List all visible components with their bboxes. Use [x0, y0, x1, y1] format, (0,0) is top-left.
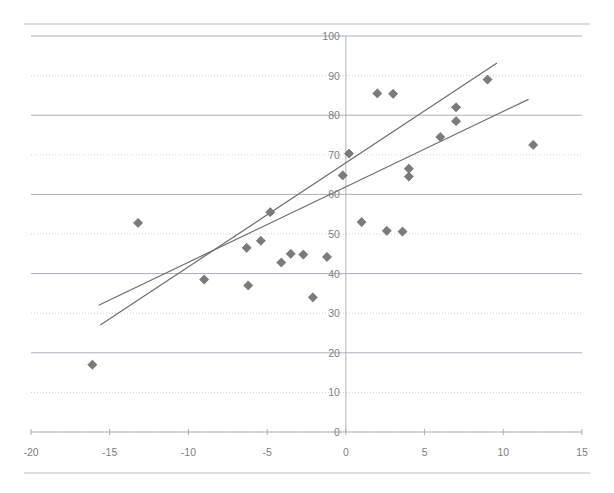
data-point	[388, 89, 397, 98]
data-point	[256, 236, 265, 245]
y-tick-label-100: 100	[322, 30, 340, 42]
x-tick-label--10: -10	[181, 446, 196, 458]
data-point	[357, 218, 366, 227]
trendline-shallower-fit	[99, 99, 529, 305]
data-point	[286, 249, 295, 258]
data-point	[483, 75, 492, 84]
data-point	[200, 275, 209, 284]
data-point	[277, 258, 286, 267]
y-tick-label-30: 30	[328, 307, 340, 319]
y-axis-tick-labels: 0102030405060708090100	[322, 30, 340, 438]
chart-canvas: 0102030405060708090100 -20-15-10-5051015	[0, 0, 614, 493]
data-point	[299, 250, 308, 259]
y-tick-label-50: 50	[328, 228, 340, 240]
y-tick-label-70: 70	[328, 149, 340, 161]
data-points	[88, 75, 538, 369]
axis-lines	[31, 36, 582, 435]
y-tick-label-0: 0	[334, 426, 340, 438]
scatter-chart: 0102030405060708090100 -20-15-10-5051015	[0, 0, 614, 493]
x-tick-label--20: -20	[23, 446, 38, 458]
y-tick-label-10: 10	[328, 386, 340, 398]
data-point	[242, 243, 251, 252]
y-tick-label-40: 40	[328, 268, 340, 280]
data-point	[133, 218, 142, 227]
data-point	[404, 172, 413, 181]
data-point	[398, 227, 407, 236]
data-point	[244, 281, 253, 290]
data-point	[382, 226, 391, 235]
data-point	[373, 89, 382, 98]
data-point	[88, 360, 97, 369]
x-tick-label-0: 0	[343, 446, 349, 458]
y-tick-label-80: 80	[328, 109, 340, 121]
data-point	[451, 117, 460, 126]
data-point	[451, 103, 460, 112]
data-point	[529, 140, 538, 149]
data-point	[308, 293, 317, 302]
y-tick-label-20: 20	[328, 347, 340, 359]
x-tick-label--15: -15	[102, 446, 117, 458]
x-tick-label-5: 5	[422, 446, 428, 458]
data-point	[322, 252, 331, 261]
y-tick-label-90: 90	[328, 70, 340, 82]
chart-border-decoration	[24, 24, 590, 473]
x-tick-label-10: 10	[497, 446, 509, 458]
y-tick-label-60: 60	[328, 188, 340, 200]
x-tick-label--5: -5	[262, 446, 271, 458]
x-axis-tick-labels: -20-15-10-5051015	[23, 446, 588, 458]
gridlines-horizontal	[31, 36, 582, 432]
x-tick-label-15: 15	[576, 446, 588, 458]
